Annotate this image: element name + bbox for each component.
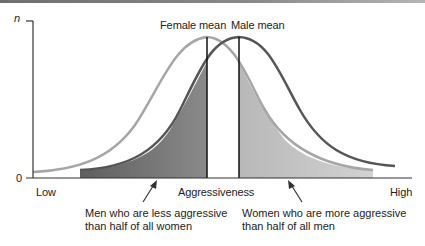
arrow-left-icon — [143, 180, 157, 202]
arrow-right-icon — [288, 180, 302, 202]
male-curve — [80, 37, 395, 170]
annotation-men-less-aggressive: Men who are less aggressive than half of… — [85, 207, 227, 233]
x-axis-high-label: High — [390, 186, 412, 198]
x-axis-title: Aggressiveness — [178, 186, 254, 198]
dark-shaded-region — [80, 62, 207, 178]
annotation-line-2: than half of all men — [242, 220, 406, 233]
annotation-line-1: Women who are more aggressive — [242, 207, 406, 220]
annotation-line-2: than half of all women — [85, 220, 227, 233]
female-mean-label: Female mean — [160, 19, 226, 31]
male-mean-label: Male mean — [231, 19, 285, 31]
y-axis-zero-label: 0 — [16, 172, 22, 184]
x-axis-low-label: Low — [36, 186, 56, 198]
annotation-women-more-aggressive: Women who are more aggressive than half … — [242, 207, 406, 233]
y-axis-top-label: n — [14, 12, 20, 24]
annotation-line-1: Men who are less aggressive — [85, 207, 227, 220]
